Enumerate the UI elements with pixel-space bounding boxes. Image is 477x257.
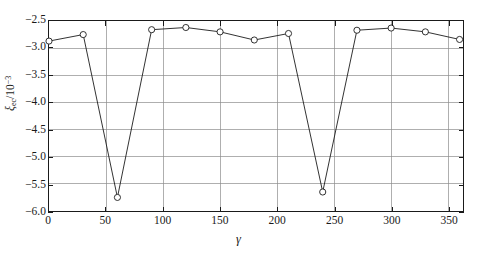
y-tick-label: −4.0	[25, 96, 46, 108]
y-tick-label: −3.5	[25, 69, 46, 81]
series-line	[49, 28, 460, 198]
data-point-marker	[285, 30, 291, 36]
x-tick-label: 100	[143, 215, 183, 227]
x-tick-mark-top	[105, 21, 106, 26]
y-tick-mark	[48, 130, 53, 131]
y-tick-label: −2.5	[25, 14, 46, 26]
x-tick-label: 350	[429, 215, 469, 227]
chart-figure: −2.5−3.0−3.5−4.0−4.5−5.0−5.5−6.005010015…	[0, 0, 477, 257]
y-tick-label: −5.0	[25, 151, 46, 163]
x-tick-mark-top	[392, 21, 393, 26]
x-tick-mark	[335, 207, 336, 212]
x-tick-mark	[449, 207, 450, 212]
data-point-marker	[456, 36, 462, 42]
y-tick-mark	[48, 157, 53, 158]
x-tick-mark	[105, 207, 106, 212]
y-tick-mark-right	[459, 212, 464, 213]
x-tick-mark	[48, 207, 49, 212]
x-tick-mark-top	[220, 21, 221, 26]
x-axis-label-symbol: γ	[236, 232, 241, 246]
x-tick-mark-top	[449, 21, 450, 26]
data-point-marker	[114, 194, 120, 200]
data-point-marker	[320, 189, 326, 195]
x-tick-mark-top	[277, 21, 278, 26]
data-point-marker	[46, 38, 52, 44]
x-tick-label: 300	[372, 215, 412, 227]
y-tick-mark-right	[459, 47, 464, 48]
y-axis-label-divider: /10	[4, 84, 16, 99]
data-point-marker	[217, 29, 223, 35]
data-point-marker	[80, 31, 86, 37]
y-tick-mark-right	[459, 185, 464, 186]
y-tick-mark	[48, 102, 53, 103]
x-tick-mark-top	[163, 21, 164, 26]
y-tick-mark-right	[459, 20, 464, 21]
x-tick-label: 200	[257, 215, 297, 227]
x-tick-mark	[392, 207, 393, 212]
x-tick-mark-top	[48, 21, 49, 26]
y-tick-mark-right	[459, 102, 464, 103]
x-tick-label: 250	[315, 215, 355, 227]
y-tick-mark	[48, 75, 53, 76]
x-tick-mark	[277, 207, 278, 212]
x-tick-mark	[163, 207, 164, 212]
data-series	[49, 21, 463, 211]
data-point-marker	[251, 37, 257, 43]
data-point-marker	[149, 27, 155, 33]
y-axis-label: ξec/10−3	[4, 58, 19, 128]
x-tick-mark-top	[335, 21, 336, 26]
x-tick-label: 0	[28, 215, 68, 227]
data-point-marker	[183, 24, 189, 30]
y-axis-label-subscript: ec	[9, 99, 18, 106]
x-tick-label: 150	[200, 215, 240, 227]
y-tick-mark-right	[459, 157, 464, 158]
y-axis-label-symbol: ξ	[4, 106, 16, 111]
data-point-marker	[354, 27, 360, 33]
x-tick-label: 50	[85, 215, 125, 227]
y-tick-mark	[48, 47, 53, 48]
y-tick-mark-right	[459, 75, 464, 76]
y-tick-label: −4.5	[25, 124, 46, 136]
y-axis-label-exponent: −3	[4, 76, 13, 85]
y-tick-mark	[48, 185, 53, 186]
y-tick-mark-right	[459, 130, 464, 131]
x-tick-mark	[220, 207, 221, 212]
y-tick-mark	[48, 212, 53, 213]
plot-area	[48, 20, 464, 212]
y-tick-label: −3.0	[25, 41, 46, 53]
x-axis-label: γ	[0, 232, 477, 247]
y-tick-label: −5.5	[25, 179, 46, 191]
data-point-marker	[422, 29, 428, 35]
